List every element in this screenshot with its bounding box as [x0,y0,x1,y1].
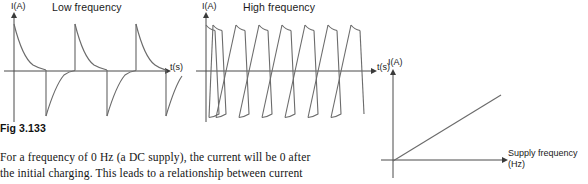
body-paragraph: For a frequency of 0 Hz (a DC supply), t… [0,150,352,181]
body-line-2: the initial charging. This leads to a re… [0,166,352,182]
chart-current-vs-frequency-y-axis-label: I(A) [388,57,403,67]
figure-page: Low frequency High frequency I(A) t(s) I… [0,0,588,184]
chart-low-frequency-x-axis-label: t(s) [170,62,183,72]
chart-title-low-frequency: Low frequency [52,1,122,13]
chart-low-frequency-y-axis-label: I(A) [11,1,26,11]
figure-caption: Fig 3.133 [0,122,46,134]
chart-high-frequency-y-axis-label: I(A) [202,1,217,11]
chart-current-vs-frequency [381,74,503,178]
chart-high-frequency [196,17,372,122]
chart-current-vs-frequency-x-axis-label: Supply frequency (Hz) [508,148,586,170]
chart-low-frequency [4,17,182,122]
chart-title-high-frequency: High frequency [243,1,315,13]
body-line-1: For a frequency of 0 Hz (a DC supply), t… [0,150,352,166]
